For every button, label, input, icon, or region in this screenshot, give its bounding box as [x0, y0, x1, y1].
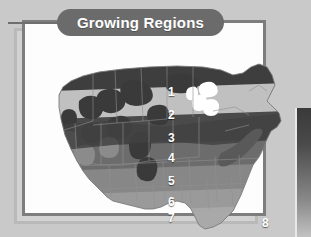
right-accent-bar — [297, 108, 311, 237]
zone-band-7 — [53, 205, 285, 233]
map-zone-bands — [53, 61, 285, 233]
map-frame-inner: 1 2 3 4 5 6 7 8 — [25, 23, 263, 213]
page-title: Growing Regions — [77, 15, 204, 30]
map-frame: 1 2 3 4 5 6 7 8 — [22, 20, 266, 216]
growing-regions-map — [53, 61, 285, 233]
page-stage: 1 2 3 4 5 6 7 8 Growing Regions — [0, 0, 311, 237]
title-banner: Growing Regions — [57, 9, 224, 36]
zone-band-6 — [53, 187, 285, 215]
